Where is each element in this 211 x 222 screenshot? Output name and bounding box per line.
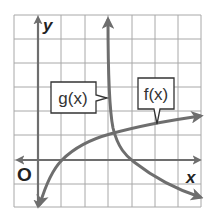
y-axis-label: y: [42, 16, 54, 35]
f-callout-label: f(x): [144, 85, 169, 104]
x-axis-label: x: [185, 168, 197, 187]
origin-label: O: [17, 164, 32, 185]
g-callout-label: g(x): [58, 89, 87, 108]
graph-canvas: g(x) f(x) y x O: [0, 0, 211, 222]
f-callout: f(x): [138, 78, 174, 124]
